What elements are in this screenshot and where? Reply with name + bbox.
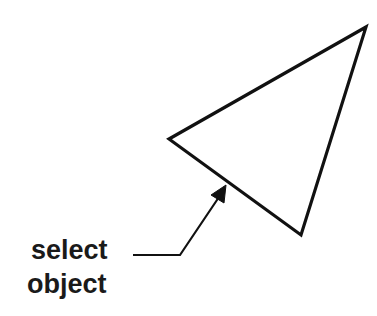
leader-line <box>133 197 219 255</box>
label-select: select <box>31 237 108 264</box>
triangle-object[interactable] <box>169 27 366 235</box>
arrowhead-icon <box>211 185 226 203</box>
diagram-canvas: select object <box>0 0 377 316</box>
label-object: object <box>27 271 107 298</box>
